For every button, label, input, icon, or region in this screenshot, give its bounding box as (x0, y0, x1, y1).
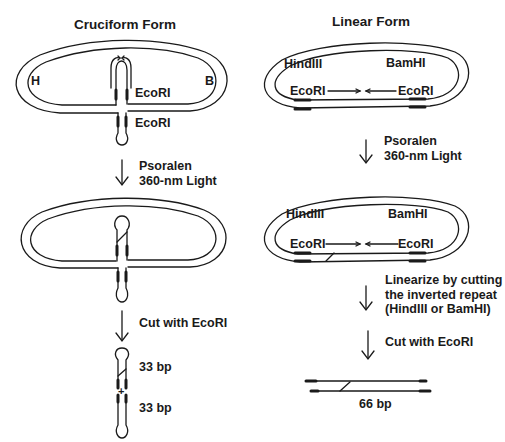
label-ecori-right-1: EcoRI (398, 84, 433, 99)
cruciform-plasmid-1 (16, 40, 227, 145)
label-ecori-right-2: EcoRI (398, 237, 433, 252)
label-ecori-bottom: EcoRI (135, 116, 170, 131)
label-33bp-2: 33 bp (139, 401, 172, 416)
step-linearize-1: Linearize by cutting (385, 273, 502, 288)
down-arrow-icon (360, 140, 372, 163)
down-arrow-icon (360, 286, 372, 310)
diagram-canvas (0, 0, 505, 442)
label-ecori-left-1: EcoRI (290, 84, 325, 99)
label-33bp-1: 33 bp (139, 360, 172, 375)
label-hindiii-2: HindIII (286, 207, 324, 222)
down-arrow-icon (116, 311, 128, 341)
step-cut-ecori-right: Cut with EcoRI (385, 335, 473, 350)
label-bamhi-1: BamHI (386, 56, 426, 71)
step-psoralen-left: Psoralen (139, 159, 192, 174)
linear-plasmid-1 (264, 43, 468, 109)
cruciform-title: Cruciform Form (74, 17, 176, 32)
step-linearize-3: (HindIII or BamHI) (385, 302, 491, 317)
label-66bp: 66 bp (359, 397, 392, 412)
step-light-left: 360-nm Light (139, 174, 217, 189)
down-arrow-icon (362, 331, 374, 359)
label-bamhi-2: BamHI (388, 207, 428, 222)
linear-title: Linear Form (332, 14, 410, 29)
cruciform-plasmid-2 (21, 198, 226, 302)
label-plus: + (118, 384, 124, 399)
label-h: H (31, 74, 40, 89)
step-cut-ecori-left: Cut with EcoRI (139, 316, 227, 331)
fragment-33bp-crosslinked (115, 348, 128, 388)
step-psoralen-right: Psoralen (384, 134, 437, 149)
label-ecori-left-2: EcoRI (290, 237, 325, 252)
label-ecori-top: EcoRI (135, 86, 170, 101)
fragment-33bp (116, 395, 127, 438)
down-arrow-icon (116, 160, 128, 185)
label-hindiii-1: HindIII (284, 57, 322, 72)
step-light-right: 360-nm Light (384, 149, 462, 164)
label-b: B (205, 74, 214, 89)
step-linearize-2: the inverted repeat (385, 288, 497, 303)
linear-fragment-66bp (306, 381, 430, 391)
